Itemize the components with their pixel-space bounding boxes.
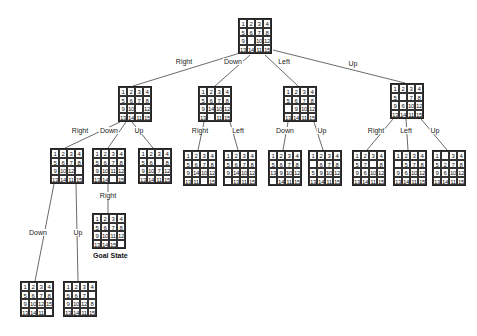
tile: 5 xyxy=(51,158,59,167)
tile: 4 xyxy=(163,149,171,158)
tile: 4 xyxy=(418,151,426,160)
tile: 8 xyxy=(248,160,256,169)
tile: 14 xyxy=(441,177,449,186)
tile: 14 xyxy=(317,177,325,186)
tile: 13 xyxy=(139,175,147,184)
tile: 15 xyxy=(377,177,385,186)
tile: 4 xyxy=(308,87,316,96)
tile: 8 xyxy=(117,223,125,232)
tile: 5 xyxy=(402,160,410,169)
tile: 5 xyxy=(93,158,101,167)
edge-U-UU xyxy=(421,119,447,150)
tile: 10 xyxy=(285,168,293,177)
tile: 2 xyxy=(72,282,80,291)
tile: 9 xyxy=(317,168,325,177)
tile: 1 xyxy=(93,214,101,223)
tile: 1 xyxy=(184,151,192,160)
tile: 14 xyxy=(72,308,80,317)
tile: 12 xyxy=(80,299,88,308)
tile: 6 xyxy=(127,96,135,105)
tile: 4 xyxy=(333,151,341,160)
tile: 7 xyxy=(80,291,88,300)
blank-tile xyxy=(269,177,277,186)
tile: 5 xyxy=(64,291,72,300)
tile: 4 xyxy=(117,214,125,223)
tile: 5 xyxy=(239,28,247,37)
tile: 6 xyxy=(232,160,240,169)
tile: 6 xyxy=(399,101,407,110)
tile: 11 xyxy=(255,45,263,54)
tile: 15 xyxy=(308,113,316,122)
tile: 12 xyxy=(208,168,216,177)
tile: 8 xyxy=(293,160,301,169)
tile: 4 xyxy=(143,87,151,96)
tile: 7 xyxy=(410,160,418,169)
tile: 8 xyxy=(415,93,423,102)
tile: 12 xyxy=(37,299,45,308)
tile: 11 xyxy=(407,110,415,119)
tile: 8 xyxy=(263,28,271,37)
tile: 11 xyxy=(37,308,45,317)
tile: 8 xyxy=(418,160,426,169)
tile: 9 xyxy=(93,166,101,175)
tile: 1 xyxy=(433,151,441,160)
tile: 2 xyxy=(127,87,135,96)
move-label-right: Right xyxy=(175,58,193,65)
tile: 10 xyxy=(407,101,415,110)
tile: 8 xyxy=(117,158,125,167)
tile: 4 xyxy=(415,84,423,93)
tile: 4 xyxy=(75,149,83,158)
tile: 2 xyxy=(59,149,67,158)
tile: 10 xyxy=(215,104,223,113)
tile: 7 xyxy=(135,96,143,105)
tile: 15 xyxy=(88,308,96,317)
tile: 13 xyxy=(64,308,72,317)
tile: 1 xyxy=(199,87,207,96)
tile: 4 xyxy=(263,19,271,28)
tile: 13 xyxy=(353,177,361,186)
tile: 7 xyxy=(407,93,415,102)
tile: 10 xyxy=(29,299,37,308)
tile: 7 xyxy=(200,160,208,169)
tile: 7 xyxy=(67,158,75,167)
tile: 4 xyxy=(88,282,96,291)
tile: 14 xyxy=(101,175,109,184)
tile: 11 xyxy=(410,177,418,186)
tile: 13 xyxy=(239,45,247,54)
tile: 2 xyxy=(361,151,369,160)
tile: 15 xyxy=(248,177,256,186)
tile: 11 xyxy=(369,177,377,186)
tile: 3 xyxy=(300,87,308,96)
puzzle-state-rdr: 123456789101112131415 xyxy=(92,213,126,249)
move-label-right: Right xyxy=(367,127,385,134)
blank-tile xyxy=(109,175,117,184)
tile: 7 xyxy=(255,28,263,37)
tile: 7 xyxy=(109,158,117,167)
blank-tile xyxy=(75,166,83,175)
tile: 7 xyxy=(37,291,45,300)
edge-root-U xyxy=(273,50,405,83)
tile: 7 xyxy=(240,160,248,169)
tile: 15 xyxy=(263,45,271,54)
tile: 10 xyxy=(200,168,208,177)
tile: 15 xyxy=(45,299,53,308)
puzzle-state-lu: 123467859101213141115 xyxy=(308,150,342,186)
move-label-left: Left xyxy=(399,127,413,134)
tile: 10 xyxy=(325,168,333,177)
tile: 11 xyxy=(449,177,457,186)
tile: 10 xyxy=(147,166,155,175)
tile: 13 xyxy=(232,177,240,186)
tile: 4 xyxy=(117,149,125,158)
tile: 13 xyxy=(199,113,207,122)
tile: 14 xyxy=(399,110,407,119)
move-label-up: Up xyxy=(430,127,441,134)
tile: 12 xyxy=(457,168,465,177)
tile: 1 xyxy=(224,151,232,160)
tile: 2 xyxy=(101,214,109,223)
tile: 11 xyxy=(285,177,293,186)
tile: 2 xyxy=(399,84,407,93)
tile: 6 xyxy=(277,160,285,169)
tile: 11 xyxy=(80,308,88,317)
tile: 9 xyxy=(139,166,147,175)
tile: 2 xyxy=(192,151,200,160)
